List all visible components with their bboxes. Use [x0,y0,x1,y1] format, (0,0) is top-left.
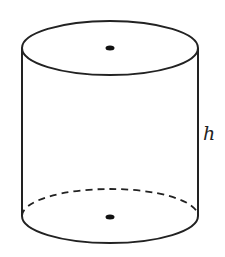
bottom-back-dashed-arc [22,189,198,216]
height-label: h [203,122,215,144]
cylinder-diagram: h [0,0,225,257]
bottom-front-arc [22,216,198,243]
top-center-point [106,46,115,51]
bottom-center-point [106,215,115,220]
